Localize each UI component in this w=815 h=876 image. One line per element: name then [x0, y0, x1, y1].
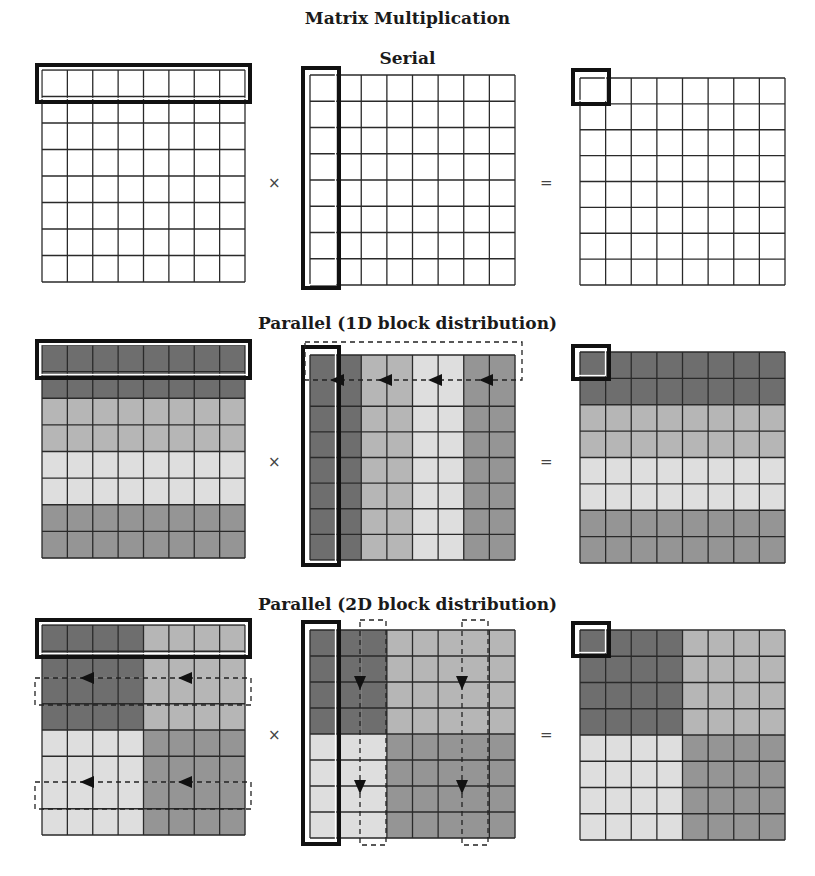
matrix-cell [144, 398, 170, 425]
matrix-cell [387, 101, 413, 128]
matrix-cell [489, 734, 515, 760]
matrix-cell [118, 372, 144, 399]
matrix-cell [580, 378, 606, 405]
matrix-cell [464, 75, 490, 102]
matrix-cell [93, 478, 119, 505]
matrix-cell [42, 425, 68, 452]
matrix-cell [734, 104, 760, 130]
matrix-cell [464, 432, 490, 458]
matrix-cell [606, 207, 632, 233]
matrix-cell [144, 123, 170, 150]
matrix-cell [194, 678, 220, 705]
matrix-cell [194, 150, 220, 177]
matrix-cell [489, 760, 515, 786]
matrix-cell [759, 182, 785, 208]
matrix-cell [42, 203, 68, 230]
matrix-cell [144, 678, 170, 705]
matrix-cell [413, 432, 439, 458]
matrix-cell [361, 656, 387, 682]
matrix-cell [413, 206, 439, 233]
matrix-cell [438, 406, 464, 432]
matrix-cell [144, 478, 170, 505]
matrix-cell [580, 788, 606, 815]
matrix-cell [118, 229, 144, 256]
matrix-cell [118, 783, 144, 810]
matrix-cell [580, 735, 606, 762]
matrix-cell [93, 531, 119, 558]
matrix-cell [42, 783, 68, 810]
matrix-cell [67, 203, 93, 230]
matrix-cell [759, 683, 785, 710]
matrix-cell [93, 345, 119, 372]
matrix-cell [438, 381, 464, 407]
matrix-cell [194, 478, 220, 505]
matrix-cell [683, 761, 709, 788]
matrix-cell [631, 259, 657, 285]
matrix-cell [67, 452, 93, 479]
matrix-cell [464, 206, 490, 233]
matrix-cell [708, 156, 734, 182]
matrix-cell [67, 625, 93, 652]
matrix-cell [361, 101, 387, 128]
matrix-cell [683, 484, 709, 511]
matrix-cell [361, 180, 387, 207]
matrix-cell [759, 130, 785, 156]
matrix-cell [759, 709, 785, 736]
matrix-cell [169, 372, 195, 399]
matrix-cell [169, 70, 195, 97]
matrix-cell [93, 203, 119, 230]
matrix-cell [759, 156, 785, 182]
matrix-cell [387, 534, 413, 560]
matrix-cell [144, 345, 170, 372]
matrix-cell [310, 355, 336, 381]
matrix-cell [42, 150, 68, 177]
matrix-cell [759, 630, 785, 657]
matrix-cell [413, 154, 439, 181]
matrix-cell [361, 483, 387, 509]
matrix-cell [657, 156, 683, 182]
matrix-cell [683, 735, 709, 762]
matrix-cell [708, 656, 734, 683]
matrix-cell [144, 783, 170, 810]
matrix-cell [489, 458, 515, 484]
matrix-cell [489, 154, 515, 181]
matrix-cell [118, 150, 144, 177]
matrix-cell [734, 233, 760, 259]
matrix-cell [42, 229, 68, 256]
matrix-cell [657, 104, 683, 130]
matrix-cell [759, 233, 785, 259]
matrix-cell [734, 458, 760, 485]
matrix-cell [580, 537, 606, 564]
matrix-cell [413, 458, 439, 484]
matrix-cell [631, 484, 657, 511]
matrix-cell [169, 150, 195, 177]
matrix-cell [413, 381, 439, 407]
matrix-cell [194, 372, 220, 399]
matrix-cell [361, 786, 387, 812]
matrix-cell [93, 730, 119, 757]
matrix-cell [361, 708, 387, 734]
matrix-cell [438, 101, 464, 128]
matrix-cell [580, 156, 606, 182]
matrix-cell [194, 176, 220, 203]
matrix-cell [734, 405, 760, 432]
matrix-cell [169, 452, 195, 479]
matrix-cell [580, 182, 606, 208]
matrix-cell [631, 405, 657, 432]
matrix-cell [734, 735, 760, 762]
matrix-cell [708, 182, 734, 208]
matrix-cell [464, 458, 490, 484]
matrix-cell [361, 154, 387, 181]
matrix-cell [361, 432, 387, 458]
matrix-cell [606, 484, 632, 511]
matrix-cell [438, 75, 464, 102]
matrix-cell [118, 398, 144, 425]
matrix-cell [683, 130, 709, 156]
matrix-cell [310, 760, 336, 786]
matrix-cell [310, 406, 336, 432]
matrix-cell [118, 203, 144, 230]
matrix-cell [734, 510, 760, 537]
matrix-cell [413, 355, 439, 381]
matrix-cell [67, 478, 93, 505]
matrix-cell [683, 709, 709, 736]
